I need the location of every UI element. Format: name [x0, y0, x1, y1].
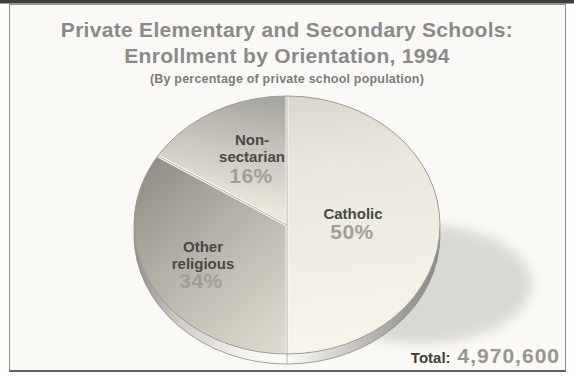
- slice-pct-other-religious: 34%: [179, 269, 223, 293]
- slice-label-catholic: Catholic: [323, 205, 382, 222]
- chart-subtitle: (By percentage of private school populat…: [0, 72, 574, 86]
- slice-label-line: Other: [172, 238, 235, 255]
- figure-page: Private Elementary and Secondary Schools…: [0, 0, 574, 378]
- total-row: Total: 4,970,600: [411, 344, 560, 368]
- slice-label-line: sectarian: [219, 148, 285, 165]
- slice-label-line: Non-: [219, 131, 285, 148]
- slice-label-other-religious: Other religious: [172, 238, 235, 272]
- total-label: Total:: [411, 349, 451, 366]
- total-value: 4,970,600: [458, 344, 560, 368]
- chart-title-line1: Private Elementary and Secondary Schools…: [0, 17, 574, 43]
- slice-label-non-sectarian: Non- sectarian: [219, 131, 285, 165]
- chart-title-line2: Enrollment by Orientation, 1994: [0, 43, 574, 69]
- slice-pct-catholic: 50%: [330, 220, 374, 244]
- chart-header: Private Elementary and Secondary Schools…: [0, 17, 574, 86]
- slice-pct-non-sectarian: 16%: [229, 164, 273, 188]
